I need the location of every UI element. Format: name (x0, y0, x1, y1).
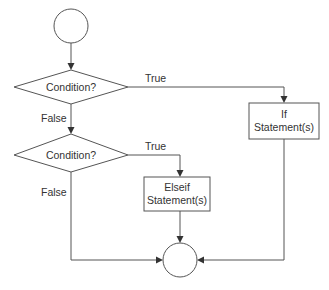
elseif-label-line2: Statement(s) (147, 194, 207, 206)
condition2-false-label: False (41, 186, 67, 198)
condition2-label: Condition? (46, 149, 96, 161)
condition1-label: Condition? (46, 81, 96, 93)
arrowhead-icon (68, 63, 75, 70)
condition1-false-label: False (41, 112, 67, 124)
arrowhead-icon (68, 127, 75, 134)
condition2-true-label: True (145, 140, 166, 152)
arrowhead-icon (197, 257, 204, 264)
edge-if-to-end (201, 139, 284, 260)
arrowhead-icon (177, 170, 184, 177)
arrowhead-icon (281, 96, 288, 103)
if-label-line1: If (281, 108, 287, 120)
elseif-label-line1: Elseif (164, 181, 190, 193)
condition1-true-label: True (145, 72, 166, 84)
arrowhead-icon (156, 257, 163, 264)
edge-condition2-true (128, 155, 180, 173)
end-node (163, 243, 197, 277)
start-node (54, 9, 88, 43)
flowchart-canvas: Condition? True If Statement(s) False Co… (0, 0, 329, 290)
arrowhead-icon (177, 236, 184, 243)
edge-condition1-true (128, 87, 284, 99)
if-label-line2: Statement(s) (254, 121, 314, 133)
